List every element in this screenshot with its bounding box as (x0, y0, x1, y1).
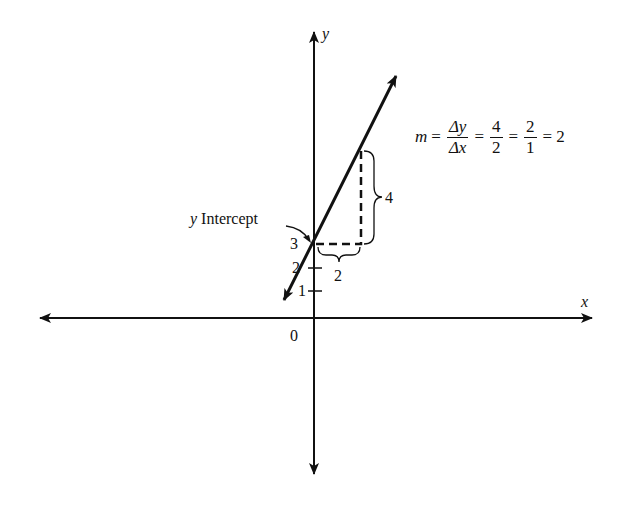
y-tick-label-3: 3 (290, 236, 298, 252)
frac-2-1-num: 2 (524, 118, 537, 138)
rise-brace-icon (364, 151, 382, 244)
frac-delta-num: Δy (447, 118, 469, 138)
frac-4-2-den: 2 (490, 138, 503, 157)
run-brace-icon (318, 247, 360, 262)
y-tick-label-1: 1 (298, 283, 306, 299)
x-axis-label: x (581, 294, 588, 310)
y-intercept-label: y Intercept (190, 211, 258, 227)
origin-label: 0 (290, 328, 298, 344)
frac-2-1-den: 1 (524, 138, 537, 157)
formula-frac-2-1: 2 1 (524, 118, 537, 157)
rise-run-dashed (316, 151, 361, 244)
formula-eq-1: = (431, 127, 441, 147)
intercept-arrowhead-icon (303, 235, 311, 243)
rise-label: 4 (385, 190, 393, 206)
formula-frac-4-2: 4 2 (490, 118, 503, 157)
y-tick-label-2: 2 (292, 260, 300, 276)
frac-4-2-num: 4 (490, 118, 503, 138)
frac-delta-den: Δx (447, 138, 469, 157)
y-axis-label: y (322, 26, 329, 42)
formula-eq-2: = (474, 127, 484, 147)
slope-formula: m = Δy Δx = 4 2 = 2 1 = 2 (415, 118, 565, 157)
formula-m: m (415, 127, 427, 147)
formula-result: 2 (556, 127, 565, 147)
intercept-text: Intercept (197, 210, 258, 227)
graph-canvas (0, 0, 623, 505)
formula-frac-delta: Δy Δx (447, 118, 469, 157)
formula-eq-3: = (509, 127, 519, 147)
run-label: 2 (334, 268, 342, 284)
formula-eq-4: = (543, 127, 553, 147)
